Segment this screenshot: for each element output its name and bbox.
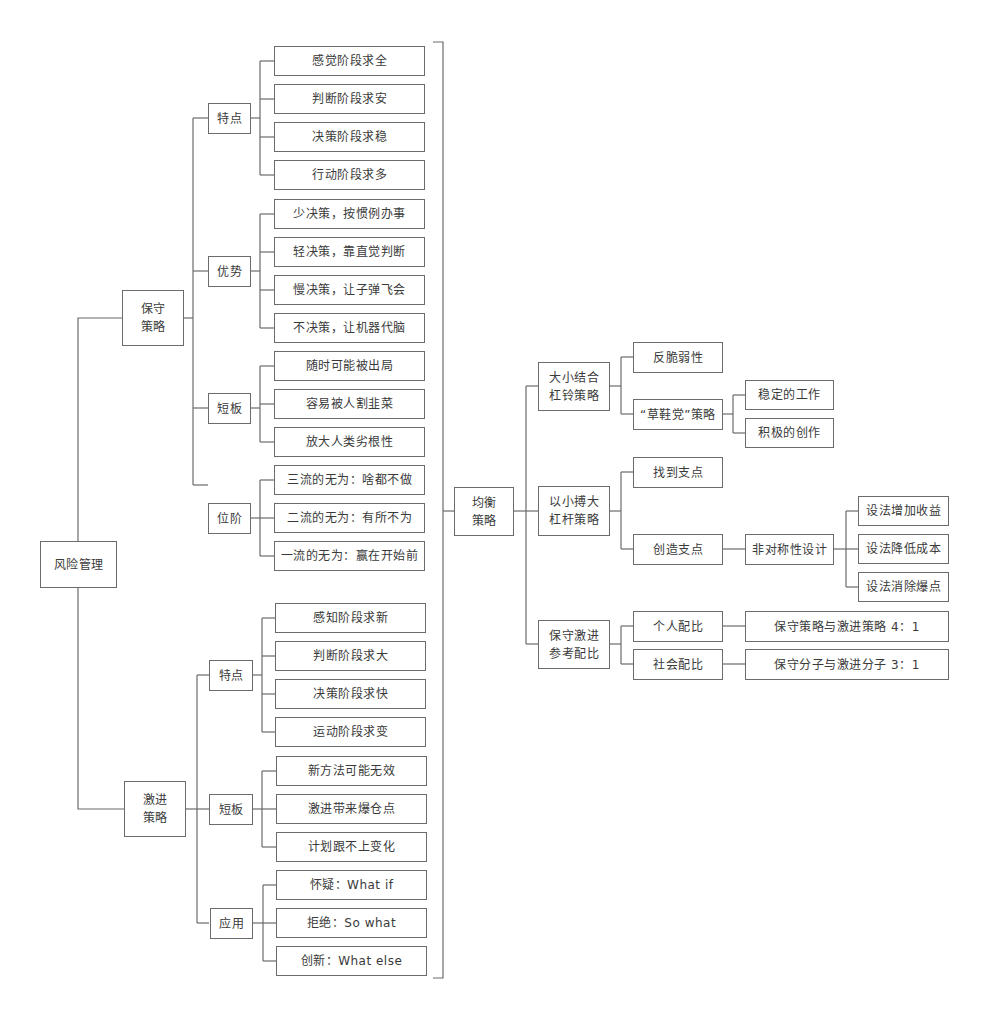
conservative-advantages-node: 优势 bbox=[208, 256, 251, 287]
leaf-node: 慢决策，让子弹飞会 bbox=[274, 275, 425, 305]
leaf-node: 激进带来爆仓点 bbox=[276, 794, 427, 824]
leaf-node: 感知阶段求新 bbox=[275, 603, 426, 633]
conservative-weakness-node: 短板 bbox=[208, 393, 251, 424]
leaf-node: 创新：What else bbox=[276, 946, 427, 976]
leaf-node: 积极的创作 bbox=[745, 418, 834, 448]
find-fulcrum-node: 找到支点 bbox=[633, 457, 723, 488]
leaf-node: 判断阶段求大 bbox=[275, 641, 426, 671]
leaf-node: 不决策，让机器代脑 bbox=[274, 313, 425, 343]
root-node: 风险管理 bbox=[40, 541, 117, 588]
aggressive-weakness-node: 短板 bbox=[209, 794, 253, 825]
social-ratio-node: 社会配比 bbox=[633, 649, 723, 680]
asymmetric-design-node: 非对称性设计 bbox=[745, 534, 834, 565]
leaf-node: 容易被人割韭菜 bbox=[274, 389, 425, 419]
risk-management-mind-map: 风险管理 保守 策略 特点 感觉阶段求全 判断阶段求安 决策阶段求稳 行动阶段求… bbox=[0, 0, 989, 1026]
ratio-reference-node: 保守激进 参考配比 bbox=[538, 620, 610, 669]
aggressive-application-node: 应用 bbox=[210, 908, 253, 939]
leaf-node: 放大人类劣根性 bbox=[274, 427, 425, 457]
leaf-node: 决策阶段求快 bbox=[275, 679, 426, 709]
leaf-node: 设法增加收益 bbox=[858, 496, 949, 526]
personal-ratio-value-node: 保守策略与激进策略 4：1 bbox=[745, 611, 949, 642]
leaf-node: 新方法可能无效 bbox=[276, 756, 427, 786]
straw-sandal-node: “草鞋党”策略 bbox=[633, 399, 723, 430]
leverage-strategy-node: 以小搏大 杠杆策略 bbox=[538, 486, 610, 536]
leaf-node: 三流的无为：啥都不做 bbox=[274, 465, 425, 495]
leaf-node: 判断阶段求安 bbox=[274, 84, 425, 114]
leaf-node: 少决策，按惯例办事 bbox=[274, 199, 425, 229]
leaf-node: 一流的无为：赢在开始前 bbox=[274, 541, 425, 571]
leaf-node: 随时可能被出局 bbox=[274, 351, 425, 381]
leaf-node: 决策阶段求稳 bbox=[274, 122, 425, 152]
leaf-node: 稳定的工作 bbox=[745, 380, 834, 410]
leaf-node: 轻决策，靠直觉判断 bbox=[274, 237, 425, 267]
leaf-node: 拒绝：So what bbox=[276, 908, 427, 938]
leaf-node: 二流的无为：有所不为 bbox=[274, 503, 425, 533]
conservative-features-node: 特点 bbox=[208, 103, 251, 134]
create-fulcrum-node: 创造支点 bbox=[633, 534, 723, 565]
leaf-node: 计划跟不上变化 bbox=[276, 832, 427, 862]
conservative-strategy-node: 保守 策略 bbox=[122, 290, 184, 346]
leaf-node: 行动阶段求多 bbox=[274, 160, 425, 190]
leaf-node: 怀疑：What if bbox=[276, 870, 427, 900]
antifragile-node: 反脆弱性 bbox=[633, 342, 723, 373]
conservative-rank-node: 位阶 bbox=[208, 503, 251, 534]
leaf-node: 运动阶段求变 bbox=[275, 717, 426, 747]
leaf-node: 感觉阶段求全 bbox=[274, 46, 425, 76]
aggressive-strategy-node: 激进 策略 bbox=[124, 781, 186, 837]
social-ratio-value-node: 保守分子与激进分子 3：1 bbox=[745, 649, 949, 680]
aggressive-features-node: 特点 bbox=[209, 660, 253, 691]
barbell-strategy-node: 大小结合 杠铃策略 bbox=[538, 362, 610, 411]
leaf-node: 设法消除爆点 bbox=[858, 572, 949, 602]
personal-ratio-node: 个人配比 bbox=[633, 611, 723, 642]
leaf-node: 设法降低成本 bbox=[858, 534, 949, 564]
balanced-strategy-node: 均衡 策略 bbox=[454, 487, 514, 536]
